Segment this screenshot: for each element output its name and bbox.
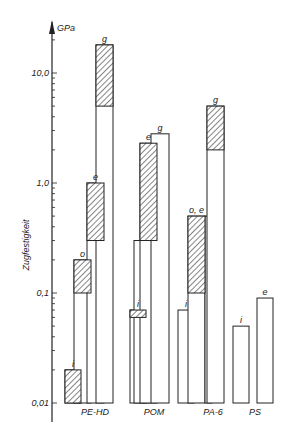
bar-label: e <box>93 172 98 182</box>
unit-label: GPa <box>57 23 75 33</box>
bar-label: o, e <box>189 205 204 215</box>
category-labels: PE-HDPOMPA-6PS <box>81 407 261 417</box>
category-label: PE-HD <box>81 407 110 417</box>
range-hatch <box>188 216 205 293</box>
bar-label: g <box>157 123 162 133</box>
bar <box>257 298 273 403</box>
bar-label: g <box>213 95 218 105</box>
range-hatch <box>74 260 91 293</box>
range-hatch <box>207 106 224 150</box>
range-hatch <box>87 183 104 241</box>
bar-label: o <box>80 249 85 259</box>
y-axis-title: Zugfestigkeit <box>21 219 31 272</box>
y-tick-label: 0,01 <box>31 398 49 408</box>
bar-label: e <box>146 132 151 142</box>
bars: ioegioegio, egie <box>65 34 273 403</box>
y-axis: GPa10,01,00,10,01Zugfestigkeit <box>21 20 75 422</box>
range-hatch <box>130 310 146 317</box>
axis-arrow-icon <box>49 20 55 34</box>
y-tick-label: 10,0 <box>31 68 49 78</box>
range-hatch <box>96 45 113 106</box>
category-label: PS <box>249 407 261 417</box>
bar <box>207 106 224 403</box>
category-label: POM <box>144 407 165 417</box>
y-tick-label: 1,0 <box>36 178 49 188</box>
category-label: PA-6 <box>203 407 222 417</box>
range-hatch <box>140 143 157 240</box>
bar <box>233 326 249 403</box>
y-tick-label: 0,1 <box>36 288 49 298</box>
bar-label: e <box>262 287 267 297</box>
bar-label: g <box>102 34 107 44</box>
bar-label: i <box>240 315 243 325</box>
strength-chart: GPa10,01,00,10,01Zugfestigkeit ioegioegi… <box>0 0 288 439</box>
range-hatch <box>65 370 81 403</box>
